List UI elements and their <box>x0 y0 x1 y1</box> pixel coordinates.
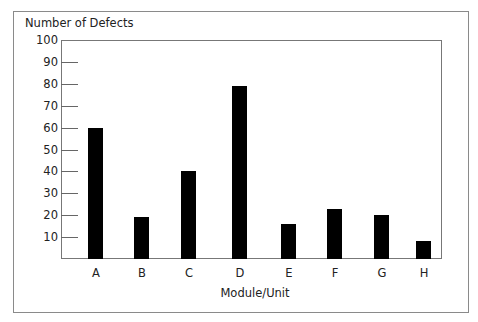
x-axis-title: Module/Unit <box>190 286 320 300</box>
y-tick-label: 50 <box>30 144 58 156</box>
bar-h <box>416 241 431 259</box>
x-tick-label: E <box>279 266 299 280</box>
bar-e <box>281 224 296 259</box>
x-tick-label: C <box>179 266 199 280</box>
bar-b <box>134 217 149 259</box>
y-tick-label: 30 <box>30 187 58 199</box>
y-tick-label: 40 <box>30 165 58 177</box>
x-tick-label: F <box>325 266 345 280</box>
bar-f <box>327 209 342 259</box>
y-axis-title: Number of Defects <box>25 16 133 30</box>
y-tick-label: 80 <box>30 78 58 90</box>
y-tick-mark <box>61 237 78 238</box>
x-tick-label: A <box>86 266 106 280</box>
y-tick-mark <box>61 150 78 151</box>
y-tick-label: 10 <box>30 231 58 243</box>
y-tick-mark <box>61 62 78 63</box>
x-tick-label: D <box>230 266 250 280</box>
y-tick-mark <box>61 84 78 85</box>
bar-d <box>232 86 247 259</box>
y-tick-label: 100 <box>30 34 58 46</box>
bar-c <box>181 171 196 259</box>
x-tick-label: B <box>132 266 152 280</box>
y-tick-mark <box>61 215 78 216</box>
y-tick-label: 90 <box>30 56 58 68</box>
bar-g <box>374 215 389 259</box>
y-tick-label: 20 <box>30 209 58 221</box>
y-tick-mark <box>61 106 78 107</box>
y-tick-mark <box>61 193 78 194</box>
y-tick-mark <box>61 171 78 172</box>
x-tick-label: H <box>414 266 434 280</box>
bar-a <box>88 128 103 259</box>
x-tick-label: G <box>372 266 392 280</box>
y-tick-label: 60 <box>30 122 58 134</box>
y-tick-label: 70 <box>30 100 58 112</box>
y-tick-mark <box>61 128 78 129</box>
